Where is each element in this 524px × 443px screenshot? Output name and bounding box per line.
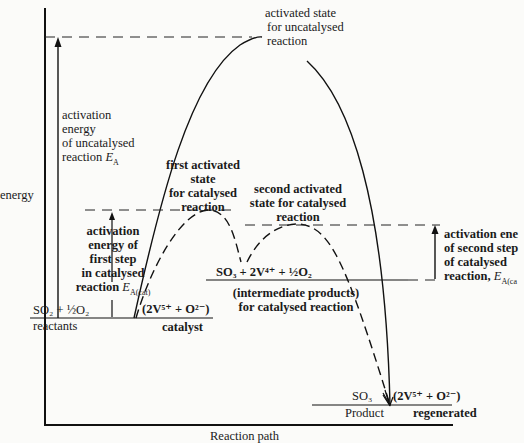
product-label: Product — [345, 406, 384, 420]
arrow-up-icon — [432, 225, 439, 234]
intermediate-label: (intermediate products) for catalysed re… — [226, 286, 366, 314]
intermediate-formula: SO₃ + 2V⁴⁺ + ½O₂ — [216, 265, 312, 279]
x-axis-label: Reaction path — [210, 429, 279, 443]
product-formula: SO₃ — [352, 389, 372, 403]
catalysed-curve-second-hump — [247, 224, 390, 405]
uncatalysed-activation-energy-label: activation energy of uncatalysed reactio… — [62, 108, 135, 164]
y-axis-label: energy — [0, 188, 34, 202]
second-step-activation-label: activation ene of second step of catalys… — [444, 227, 518, 283]
reactants-formula: SO₂ + ½O₂ — [33, 303, 89, 317]
catalyst-formula: (2V⁵⁺ + O²⁻) — [142, 302, 209, 316]
first-step-activation-label: activation energy of first step in catal… — [68, 224, 158, 294]
catalyst-label: catalyst — [162, 320, 203, 334]
second-peak-label: second activated state for catalysed rea… — [248, 182, 348, 224]
reactants-label: reactants — [33, 319, 77, 333]
uncatalysed-peak-label: activated state for uncatalysed reaction — [265, 6, 344, 48]
arrow-up-icon — [109, 212, 115, 220]
regenerated-catalyst-formula: (2V⁵⁺ + O²⁻) — [393, 389, 460, 403]
arrow-up-icon — [55, 37, 62, 47]
first-peak-label: first activated state for catalysed reac… — [158, 158, 248, 214]
regenerated-label: regenerated — [413, 406, 477, 420]
